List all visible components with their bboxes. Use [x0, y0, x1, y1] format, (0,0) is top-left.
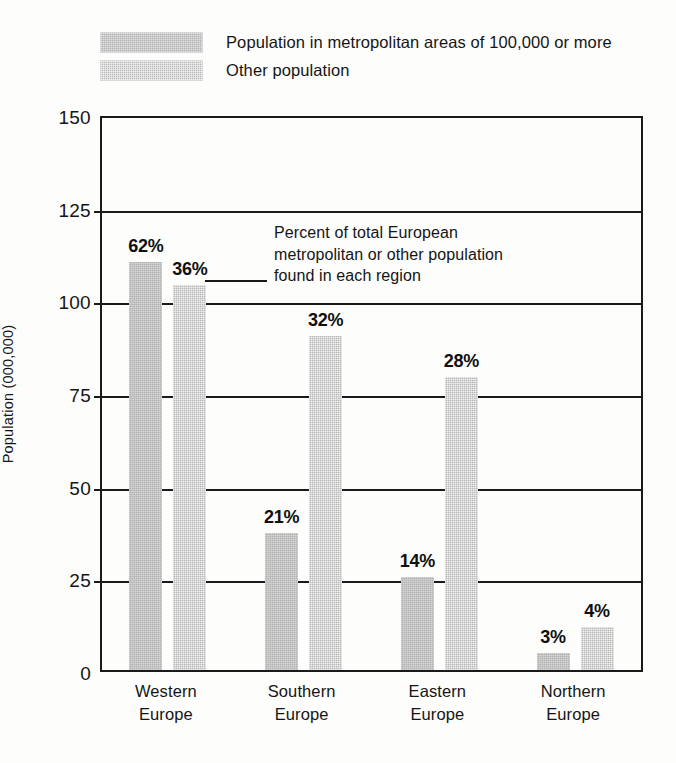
y-tick-label-150: 150 [21, 107, 91, 129]
chart-legend: Population in metropolitan areas of 100,… [100, 28, 660, 84]
bar-metro-2: 14% [401, 577, 434, 670]
y-tick-label-75: 75 [21, 385, 91, 407]
x-category-label-0: WesternEurope [135, 680, 197, 726]
y-tick-mark-75 [94, 396, 102, 398]
x-category-label-line: Southern [268, 680, 336, 703]
bar-value-label: 3% [540, 627, 566, 648]
annotation-leader-line [205, 280, 267, 282]
y-tick-mark-50 [94, 489, 102, 491]
y-tick-label-100: 100 [21, 292, 91, 314]
y-tick-label-125: 125 [21, 200, 91, 222]
chart-annotation: Percent of total European metropolitan o… [274, 222, 503, 287]
annotation-line-1: Percent of total European [274, 222, 503, 244]
bar-chart-figure: Population in metropolitan areas of 100,… [0, 0, 676, 763]
x-category-label-line: Europe [268, 703, 336, 726]
y-tick-mark-25 [94, 581, 102, 583]
bar-value-label: 62% [128, 236, 163, 257]
bar-other-3: 4% [581, 627, 614, 670]
legend-item-other: Other population [100, 56, 660, 84]
metro-swatch-icon [100, 32, 203, 53]
bar-value-label: 4% [584, 601, 610, 622]
bar-metro-1: 21% [265, 533, 298, 670]
x-category-label-3: NorthernEurope [541, 680, 606, 726]
bar-value-label: 32% [308, 310, 343, 331]
y-tick-label-50: 50 [21, 478, 91, 500]
legend-item-metro: Population in metropolitan areas of 100,… [100, 28, 660, 56]
y-tick-mark-100 [94, 303, 102, 305]
annotation-line-3: found in each region [274, 265, 503, 287]
x-category-label-line: Europe [135, 703, 197, 726]
bar-value-label: 28% [444, 351, 479, 372]
x-category-label-line: Eastern [409, 680, 467, 703]
plot-area: 0255075100125150 62%21%14%3%36%32%28%4% … [100, 116, 643, 672]
bar-groups: 62%21%14%3%36%32%28%4% [102, 118, 641, 670]
x-category-label-line: Europe [541, 703, 606, 726]
y-tick-label-0: 0 [21, 663, 91, 685]
x-category-label-line: Western [135, 680, 197, 703]
bar-other-1: 32% [309, 336, 342, 670]
x-category-label-line: Northern [541, 680, 606, 703]
bar-value-label: 14% [400, 551, 435, 572]
x-axis-category-labels: WesternEuropeSouthernEuropeEasternEurope… [100, 680, 643, 740]
x-category-label-2: EasternEurope [409, 680, 467, 726]
annotation-line-2: metropolitan or other population [274, 244, 503, 266]
bar-value-label: 36% [172, 259, 207, 280]
bar-other-0: 36% [173, 285, 206, 670]
y-tick-mark-125 [94, 211, 102, 213]
y-axis-title: Population (000,000) [0, 116, 22, 672]
other-swatch-icon [100, 60, 203, 81]
legend-item-other-label: Other population [226, 61, 350, 80]
bar-metro-3: 3% [537, 653, 570, 670]
bar-value-label: 21% [264, 507, 299, 528]
x-category-label-1: SouthernEurope [268, 680, 336, 726]
y-tick-label-25: 25 [21, 570, 91, 592]
x-category-label-line: Europe [409, 703, 467, 726]
bar-other-2: 28% [445, 377, 478, 670]
legend-item-metro-label: Population in metropolitan areas of 100,… [226, 33, 612, 52]
bar-metro-0: 62% [129, 262, 162, 670]
